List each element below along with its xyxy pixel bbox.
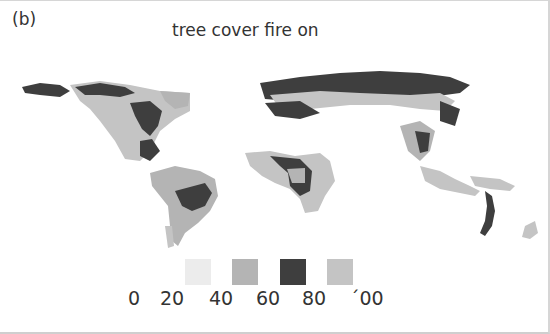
legend-tick-20: 20 bbox=[160, 287, 184, 309]
figure-frame: (b) tree cover fire on bbox=[0, 0, 550, 334]
legend-tick-60: 60 bbox=[256, 287, 280, 309]
panel-label: (b) bbox=[12, 9, 36, 29]
eurasia bbox=[260, 71, 470, 161]
world-tree-cover-map bbox=[0, 41, 550, 256]
north-america bbox=[22, 81, 190, 161]
legend-tick-0: 0 bbox=[128, 287, 140, 309]
legend-swatch-20-40 bbox=[185, 259, 211, 285]
legend-tick-80: 80 bbox=[302, 287, 326, 309]
southeast-asia-oceania bbox=[420, 166, 538, 239]
legend: 0 20 40 60 80 ´00 bbox=[0, 257, 550, 317]
africa bbox=[245, 151, 335, 213]
legend-tick-100: ´00 bbox=[350, 287, 384, 309]
legend-tick-40: 40 bbox=[209, 287, 233, 309]
legend-swatch-80-100 bbox=[327, 259, 353, 285]
south-america bbox=[150, 166, 218, 248]
map-title: tree cover fire on bbox=[172, 20, 319, 40]
legend-swatch-40-60 bbox=[232, 259, 258, 285]
legend-swatch-60-80 bbox=[280, 259, 306, 285]
